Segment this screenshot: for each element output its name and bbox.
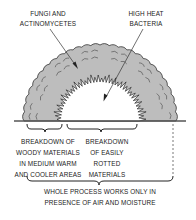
easily-line-4: MATERIALS bbox=[86, 169, 129, 180]
easily-rotted-label: BREAKDOWN OF EASILY ROTTED MATERIALS bbox=[86, 136, 129, 180]
easily-line-2: OF EASILY bbox=[86, 147, 129, 158]
fungi-label-line-2: ACTINOMYCETES bbox=[20, 20, 76, 27]
fungi-label: FUNGI AND ACTINOMYCETES bbox=[20, 10, 76, 27]
easily-line-3: ROTTED bbox=[86, 158, 129, 169]
woody-line-4: AND COOLER AREAS bbox=[15, 169, 82, 180]
bacteria-label: HIGH HEAT BACTERIA bbox=[128, 10, 163, 27]
compost-diagram: FUNGI AND ACTINOMYCETES HIGH HEAT BACTER… bbox=[0, 0, 196, 220]
woody-line-1: BREAKDOWN OF bbox=[15, 136, 82, 147]
easily-rotted-brace bbox=[67, 124, 137, 132]
fungi-label-line-1: FUNGI AND bbox=[20, 10, 76, 17]
woody-line-3: IN MEDIUM WARM bbox=[15, 158, 82, 169]
woody-line-2: WOODY MATERIALS bbox=[15, 147, 82, 158]
bacteria-label-line-2: BACTERIA bbox=[128, 20, 163, 27]
bacteria-label-line-1: HIGH HEAT bbox=[128, 10, 163, 17]
woody-brace bbox=[27, 124, 62, 132]
whole-line-1: WHOLE PROCESS WORKS ONLY IN bbox=[44, 187, 156, 198]
whole-process-label: WHOLE PROCESS WORKS ONLY IN PRESENCE OF … bbox=[44, 187, 156, 208]
woody-breakdown-label: BREAKDOWN OF WOODY MATERIALS IN MEDIUM W… bbox=[15, 136, 82, 180]
easily-line-1: BREAKDOWN bbox=[86, 136, 129, 147]
whole-line-2: PRESENCE OF AIR AND MOISTURE bbox=[44, 198, 156, 209]
